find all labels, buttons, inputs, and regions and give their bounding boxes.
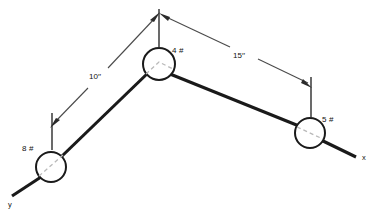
- axis-label-y: y: [8, 200, 12, 209]
- member-apex-to-right: [170, 74, 299, 126]
- dimension-line-10in-lower: [55, 88, 88, 122]
- x-axis-line: [321, 140, 356, 157]
- member-left-to-apex: [61, 72, 149, 157]
- arrowhead-15in-start: [159, 13, 170, 21]
- technical-diagram: 8 # 4 # 5 # 10′′ 15′′ x y: [0, 0, 374, 220]
- dimension-label-15in: 15′′: [233, 51, 245, 60]
- y-axis-line: [12, 177, 41, 196]
- dimension-line-15in-right: [258, 59, 308, 83]
- node-label-left: 8 #: [22, 144, 34, 153]
- axis-label-x: x: [362, 153, 366, 162]
- dimension-label-10in: 10′′: [89, 72, 101, 81]
- node-circle-apex: [143, 48, 175, 80]
- dimension-line-15in-left: [164, 16, 230, 47]
- diagram-canvas: 8 # 4 # 5 # 10′′ 15′′ x y: [0, 0, 374, 220]
- node-label-right: 5 #: [322, 115, 334, 124]
- node-label-apex: 4 #: [172, 46, 184, 55]
- node-circles: [36, 48, 325, 182]
